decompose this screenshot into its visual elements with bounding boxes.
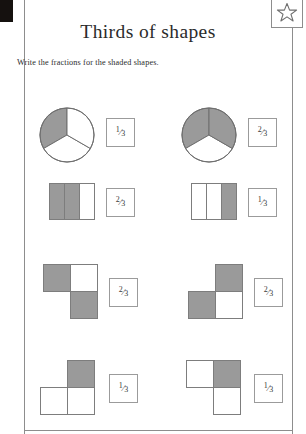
answer-box-3[interactable]: 2⁄3	[106, 188, 135, 217]
fraction-8: 1⁄3	[264, 382, 274, 394]
answer-box-2[interactable]: 2⁄3	[248, 118, 277, 147]
shape-part	[213, 387, 241, 415]
shape-part	[67, 360, 95, 388]
worksheet-page: Thirds of shapes Write the fractions for…	[0, 0, 306, 434]
answer-box-5[interactable]: 2⁄3	[109, 278, 138, 307]
shape-circle-thirds	[180, 106, 238, 168]
shape-part	[206, 183, 222, 220]
shape-part	[64, 183, 80, 220]
fraction-4: 1⁄3	[258, 196, 268, 208]
fraction-2: 2⁄3	[258, 126, 268, 138]
shape-part	[215, 291, 243, 319]
page-border-right	[292, 0, 293, 434]
answer-box-1[interactable]: 1⁄3	[106, 118, 135, 147]
shape-part	[70, 291, 98, 319]
shape-circle-thirds	[38, 106, 96, 168]
answer-box-7[interactable]: 1⁄3	[109, 374, 138, 403]
star-icon	[276, 2, 298, 23]
shape-part	[213, 360, 241, 388]
shape-part	[49, 183, 65, 220]
shape-part	[191, 183, 207, 220]
answer-box-8[interactable]: 1⁄3	[254, 374, 283, 403]
shape-part	[79, 183, 95, 220]
shape-part	[70, 264, 98, 292]
fraction-6: 2⁄3	[264, 286, 274, 298]
page-title: Thirds of shapes	[24, 21, 272, 43]
answer-box-6[interactable]: 2⁄3	[254, 278, 283, 307]
shape-part	[43, 264, 71, 292]
instruction-text: Write the fractions for the shaded shape…	[17, 58, 159, 67]
shape-part	[67, 387, 95, 415]
answer-box-4[interactable]: 1⁄3	[248, 188, 277, 217]
shape-part	[215, 264, 243, 292]
shape-part	[221, 183, 237, 220]
page-border-bottom	[24, 430, 293, 431]
shape-part	[188, 291, 216, 319]
shape-part	[40, 387, 68, 415]
fraction-5: 2⁄3	[119, 286, 129, 298]
fraction-3: 2⁄3	[116, 196, 126, 208]
scan-artifact	[0, 0, 13, 22]
fraction-1: 1⁄3	[116, 126, 126, 138]
star-badge	[271, 0, 303, 28]
shape-part	[186, 360, 214, 388]
fraction-7: 1⁄3	[119, 382, 129, 394]
